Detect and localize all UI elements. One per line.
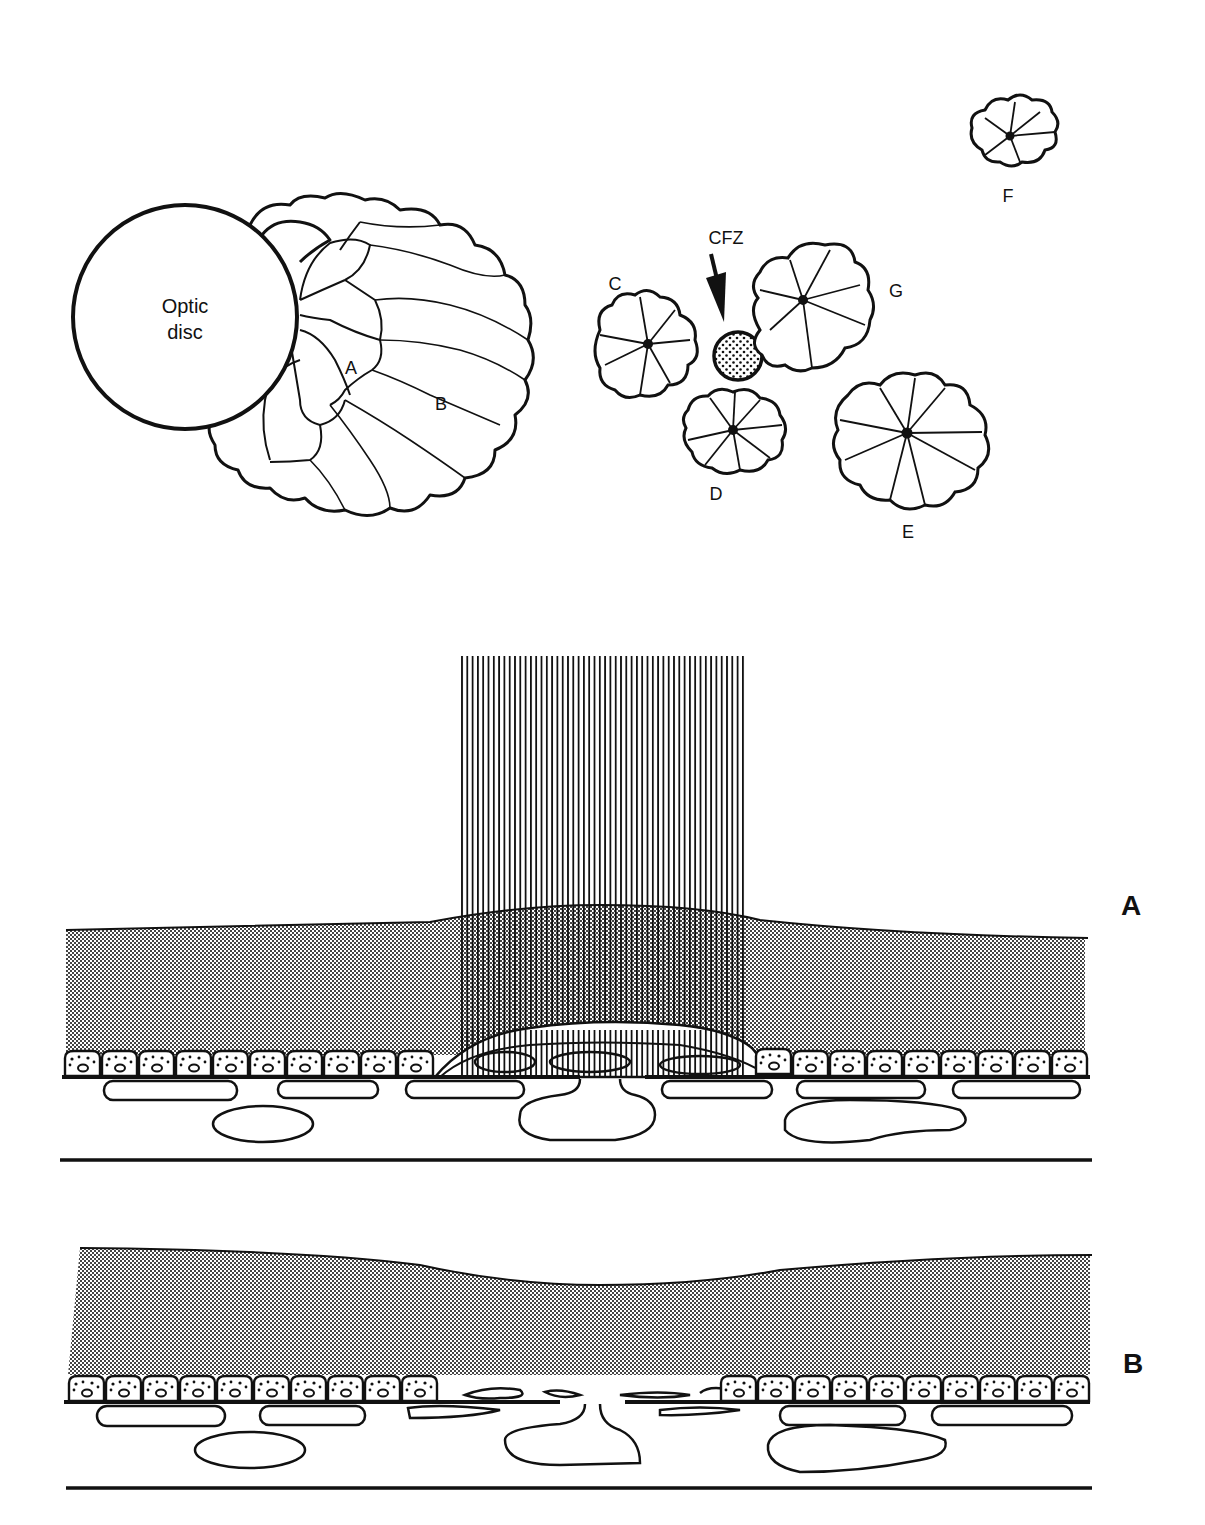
cross-section-a (60, 656, 1092, 1160)
rosette-f (971, 95, 1058, 166)
rosette-e (833, 373, 988, 509)
figure-canvas: Optic disc A B C CFZ G (0, 0, 1205, 1525)
choroid-vessels-a (104, 1079, 1080, 1142)
laser-beam (459, 656, 747, 1056)
optic-disc-label-line1: Optic (162, 295, 209, 317)
panel-label-b: B (1123, 1348, 1143, 1380)
label-b-top: B (435, 394, 447, 414)
label-f: F (1003, 186, 1014, 206)
label-e: E (902, 522, 914, 542)
rpe-layer-right (756, 1049, 1087, 1076)
rpe-scar (465, 1388, 730, 1398)
optic-disc: Optic disc (73, 205, 297, 429)
optic-disc-label-line2: disc (167, 321, 203, 343)
label-a-top: A (345, 358, 357, 378)
choroid-vessels-b (97, 1404, 1072, 1472)
rpe-layer-b-right (721, 1376, 1089, 1401)
panel-label-a: A (1121, 890, 1141, 922)
label-c: C (609, 274, 622, 294)
rosette-g (753, 243, 873, 371)
label-g: G (889, 281, 903, 301)
rosette-c (595, 290, 697, 397)
rpe-layer-b-left (69, 1376, 437, 1401)
rosette-d (683, 389, 785, 473)
label-cfz: CFZ (709, 228, 744, 248)
label-d: D (710, 484, 723, 504)
cross-section-b (64, 1248, 1092, 1488)
